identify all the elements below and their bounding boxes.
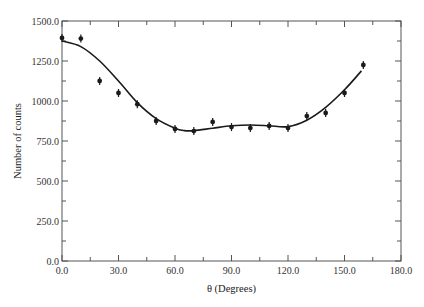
y-axis-label: Number of counts: [12, 103, 23, 179]
x-tick-label: 120.0: [277, 265, 300, 276]
point-marker: [97, 79, 102, 84]
point-marker: [60, 36, 65, 41]
x-tick-label: 0.0: [56, 265, 69, 276]
point-marker: [173, 127, 178, 132]
point-marker: [248, 126, 253, 131]
point-marker: [286, 126, 291, 131]
x-tick-label: 30.0: [110, 265, 128, 276]
data-point: [267, 122, 272, 130]
y-tick-labels: 0.0250.0500.0750.01000.01250.01500.0: [32, 16, 60, 267]
point-marker: [135, 102, 140, 107]
point-marker: [304, 114, 309, 119]
x-tick-label: 150.0: [333, 265, 356, 276]
data-point: [210, 118, 215, 126]
point-marker: [116, 91, 121, 96]
data-point: [229, 123, 234, 131]
y-tick-label: 1250.0: [32, 56, 60, 67]
data-point: [78, 35, 83, 43]
point-marker: [191, 129, 196, 134]
x-tick-label: 90.0: [223, 265, 241, 276]
point-marker: [361, 63, 366, 68]
x-tick-labels: 0.030.060.090.0120.0150.0180.0: [56, 265, 413, 276]
point-marker: [267, 124, 272, 129]
data-point: [97, 77, 102, 85]
data-points: [60, 34, 366, 135]
point-marker: [342, 91, 347, 96]
data-point: [173, 125, 178, 133]
point-marker: [229, 125, 234, 130]
data-point: [116, 89, 121, 97]
x-tick-label: 60.0: [166, 265, 184, 276]
y-tick-label: 1500.0: [32, 16, 60, 27]
data-point: [191, 127, 196, 135]
plot-border: [62, 21, 401, 261]
y-tick-label: 250.0: [37, 216, 60, 227]
data-point: [286, 124, 291, 132]
axis-ticks: [62, 21, 401, 261]
y-tick-label: 0.0: [47, 256, 60, 267]
y-tick-label: 500.0: [37, 176, 60, 187]
point-marker: [210, 120, 215, 125]
data-point: [323, 109, 328, 117]
point-marker: [154, 119, 159, 124]
point-marker: [78, 36, 83, 41]
x-axis-label: θ (Degrees): [207, 283, 257, 295]
plot-frame: [62, 21, 401, 261]
data-point: [342, 89, 347, 97]
data-point: [361, 61, 366, 69]
fit-curve: [62, 41, 361, 131]
point-marker: [323, 111, 328, 116]
y-tick-label: 750.0: [37, 136, 60, 147]
y-tick-label: 1000.0: [32, 96, 60, 107]
scatter-chart: 0.030.060.090.0120.0150.0180.0 0.0250.05…: [0, 0, 424, 307]
x-tick-label: 180.0: [390, 265, 413, 276]
